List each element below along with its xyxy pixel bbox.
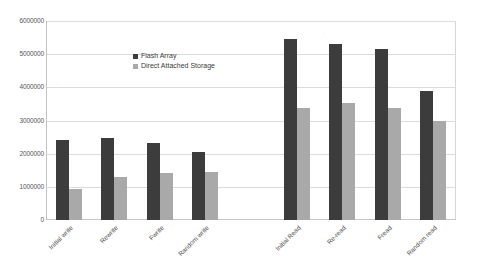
y-axis-tick-label: 3000000: [0, 117, 44, 124]
bar-group-spacer: [228, 21, 274, 220]
x-axis-tick-labels: Initial writeRewriteFwriteRandom writeIn…: [46, 220, 456, 280]
legend-swatch-icon: [133, 54, 138, 59]
x-axis-tick-label-cell: [228, 220, 274, 280]
bar: [388, 108, 401, 220]
x-axis-tick-label: Rewrite: [99, 224, 120, 245]
x-axis-tick-label-cell: Fread: [365, 220, 411, 280]
bar-group: [92, 21, 138, 220]
x-axis-tick-label-cell: Random write: [183, 220, 229, 280]
bar: [433, 121, 446, 221]
y-axis-tick-label: 6000000: [0, 17, 44, 24]
bar: [114, 177, 127, 220]
x-axis-tick-label: Random read: [405, 224, 439, 258]
y-axis-tick-labels: 6000000500000040000003000000200000010000…: [0, 0, 44, 280]
x-axis-tick-label: Fwrite: [147, 224, 165, 242]
x-axis-tick-label-cell: Initial write: [46, 220, 92, 280]
x-axis-tick-label-cell: Random read: [411, 220, 457, 280]
legend: Flash Array Direct Attached Storage: [133, 51, 215, 71]
y-axis-tick-label: 1000000: [0, 183, 44, 190]
bar: [147, 143, 160, 220]
bar-group: [365, 21, 411, 220]
x-axis-tick-label-cell: Initial Read: [274, 220, 320, 280]
bar-group: [319, 21, 365, 220]
legend-swatch-icon: [133, 64, 138, 69]
legend-item-label: Flash Array: [141, 51, 176, 61]
bar: [160, 173, 173, 220]
bar: [297, 108, 310, 220]
bar-group: [274, 21, 320, 220]
bar-groups: [46, 21, 456, 220]
x-axis-tick-label: Random write: [177, 224, 211, 258]
y-axis-tick-label: 4000000: [0, 83, 44, 90]
x-axis-tick-label-cell: Rewrite: [92, 220, 138, 280]
bar: [420, 91, 433, 220]
x-axis-tick-label-cell: Fwrite: [137, 220, 183, 280]
x-axis-tick-label: Initial Read: [274, 224, 303, 253]
y-axis-tick-label: 5000000: [0, 50, 44, 57]
bar: [329, 44, 342, 220]
bar: [205, 172, 218, 220]
legend-item-label: Direct Attached Storage: [141, 61, 215, 71]
bar: [101, 138, 114, 220]
bar-group: [411, 21, 457, 220]
bar: [69, 189, 82, 221]
bar: [342, 103, 355, 220]
bar-chart: 6000000500000040000003000000200000010000…: [0, 0, 484, 280]
x-axis-tick-label: Fread: [376, 224, 394, 242]
bar-group: [46, 21, 92, 220]
x-axis-tick-label: Re-read: [326, 224, 348, 246]
legend-item: Flash Array: [133, 51, 215, 61]
bar: [284, 39, 297, 220]
x-axis-tick-label-cell: Re-read: [319, 220, 365, 280]
bar: [375, 49, 388, 220]
bar: [56, 140, 69, 220]
legend-item: Direct Attached Storage: [133, 61, 215, 71]
x-axis-tick-label: Initial write: [47, 224, 74, 251]
y-axis-tick-label: 0: [0, 216, 44, 223]
bar: [192, 152, 205, 220]
y-axis-tick-label: 2000000: [0, 150, 44, 157]
